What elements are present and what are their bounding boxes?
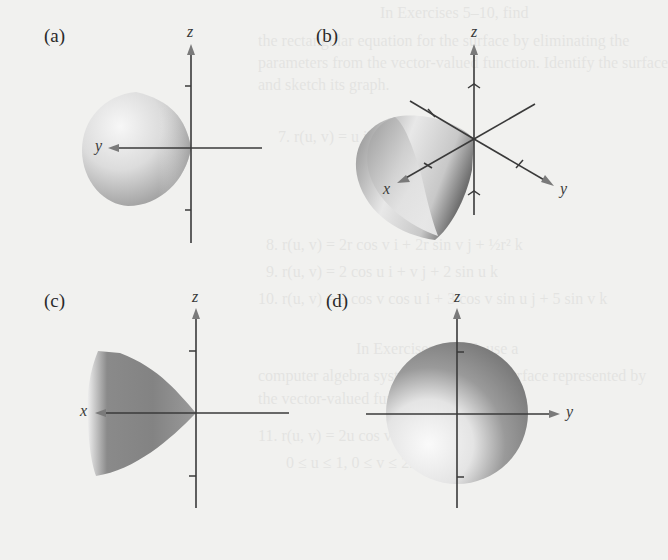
y-arrow-icon-d [549, 410, 560, 418]
axis-label-z-b: z [471, 23, 477, 41]
y-arrow-icon-b [541, 175, 554, 186]
figure-label-c: (c) [44, 290, 65, 312]
figure-label-b: (b) [316, 25, 338, 47]
axis-label-z-a: z [187, 23, 193, 41]
axis-label-y-d: y [566, 403, 573, 421]
axis-label-z-c: z [192, 288, 198, 306]
figure-d [366, 308, 560, 508]
z-arrow-icon-b [470, 44, 478, 55]
y-axis-b [474, 139, 546, 181]
z-arrow-icon-c [192, 308, 200, 319]
axis-label-y-a: y [95, 137, 102, 155]
z-arrow-icon-a [187, 44, 195, 55]
axis-label-z-d: z [454, 288, 460, 306]
axis-label-y-b: y [560, 180, 567, 198]
figure-label-d: (d) [326, 290, 348, 312]
z-arrow-icon-d [453, 308, 461, 319]
neg-x-axis-b [474, 104, 535, 139]
figure-label-a: (a) [44, 25, 65, 47]
axis-label-x-b: x [383, 180, 390, 198]
axis-label-x-c: x [80, 402, 87, 420]
figure-a [82, 44, 262, 243]
figure-b [356, 44, 554, 240]
figure-c [87, 308, 289, 508]
